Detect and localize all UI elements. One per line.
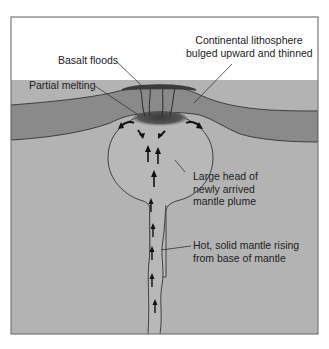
label-lithosphere-line-2: bulged upward and thinned — [186, 47, 312, 60]
label-basalt-floods: Basalt floods — [58, 54, 118, 67]
label-plume-head-line-3: mantle plume — [193, 195, 258, 208]
partial-melting-zone — [132, 111, 188, 127]
label-plume-head-line-1: Large head of — [193, 170, 258, 183]
label-plume-tail-line-1: Hot, solid mantle rising — [193, 239, 299, 252]
label-lithosphere: Continental lithosphere bulged upward an… — [186, 34, 312, 59]
label-basalt-floods-text: Basalt floods — [58, 54, 118, 66]
label-plume-tail: Hot, solid mantle rising from base of ma… — [193, 239, 299, 264]
label-partial-melting: Partial melting — [29, 79, 96, 92]
label-plume-head: Large head of newly arrived mantle plume — [193, 170, 258, 208]
label-partial-melting-text: Partial melting — [29, 79, 96, 91]
label-plume-tail-line-2: from base of mantle — [193, 252, 299, 265]
label-plume-head-line-2: newly arrived — [193, 183, 258, 196]
label-lithosphere-line-1: Continental lithosphere — [186, 34, 312, 47]
